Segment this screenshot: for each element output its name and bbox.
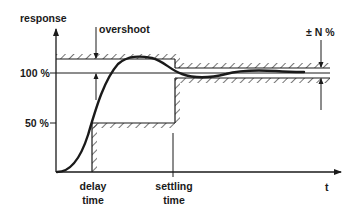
delay-bound [92,123,175,172]
step-response-diagram: response overshoot ± N % 100 % 50 % dela… [0,0,353,215]
level-100-label: 100 % [20,68,50,79]
tolerance-lower-bound [175,78,330,123]
tolerance-upper-bound [175,63,330,68]
settling-time-label-line1: settling [153,181,195,192]
x-axis-label: t [325,182,329,193]
level-50-label: 50 % [25,118,49,129]
overshoot-label: overshoot [99,24,150,35]
tolerance-label: ± N % [306,27,335,38]
delay-time-label-line1: delay [78,181,108,192]
settling-time-label-line2: time [153,195,195,206]
y-axis-label: response [20,13,67,24]
delay-time-label-line2: time [78,195,108,206]
